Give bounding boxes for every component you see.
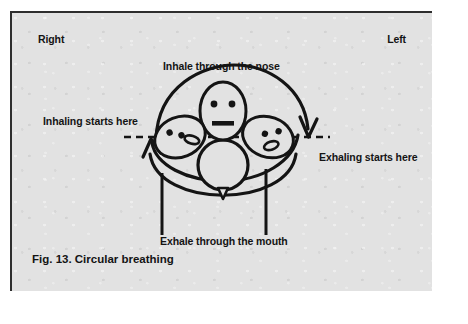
face-center-eye-right	[229, 101, 236, 108]
label-exhale-through-the-mouth: Exhale through the mouth	[160, 235, 288, 247]
figure-caption: Fig. 13. Circular breathing	[32, 253, 174, 265]
label-inhaling-starts-here: Inhaling starts here	[43, 115, 138, 127]
balloon-tail-icon	[218, 188, 228, 199]
face-center-outline	[200, 82, 246, 140]
label-right: Right	[38, 33, 64, 45]
scanned-page-panel: Right Left Inhale through the nose Inhal…	[10, 11, 432, 291]
label-inhale-through-the-nose: Inhale through the nose	[163, 60, 280, 72]
balloon-circle	[198, 140, 248, 190]
face-center-mouth	[212, 121, 234, 126]
label-left: Left	[387, 33, 406, 45]
label-exhaling-starts-here: Exhaling starts here	[319, 151, 417, 163]
face-center-upright	[200, 82, 246, 140]
face-center-eye-left	[211, 101, 218, 108]
figure-root: Right Left Inhale through the nose Inhal…	[0, 0, 468, 324]
